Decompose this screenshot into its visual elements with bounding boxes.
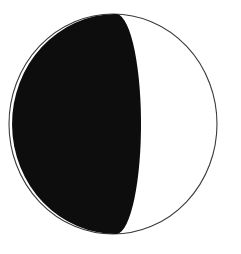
moon-phase-svg xyxy=(0,0,241,254)
moon-phase-figure: Circle with the left portion filled soli… xyxy=(0,0,241,254)
